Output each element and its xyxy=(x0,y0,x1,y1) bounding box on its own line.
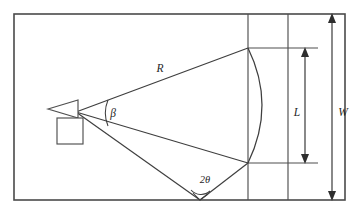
source-triangle-icon xyxy=(48,100,78,118)
beam-footprint-arc xyxy=(248,48,262,163)
lower-ray xyxy=(76,112,200,200)
label-beta-angle: β xyxy=(109,107,116,120)
label-length-L: L xyxy=(293,106,300,118)
label-range-R: R xyxy=(155,62,163,74)
middle-ray xyxy=(76,112,248,163)
label-width-W: W xyxy=(338,106,349,118)
source-square-icon xyxy=(57,118,83,144)
beta-angle-arc xyxy=(105,100,108,126)
upper-ray-R xyxy=(76,48,248,112)
label-two-theta-angle: 2θ xyxy=(200,174,210,185)
beam-coverage-diagram: R β 2θ L W xyxy=(0,0,360,220)
diagram-canvas: R β 2θ L W xyxy=(0,0,360,220)
